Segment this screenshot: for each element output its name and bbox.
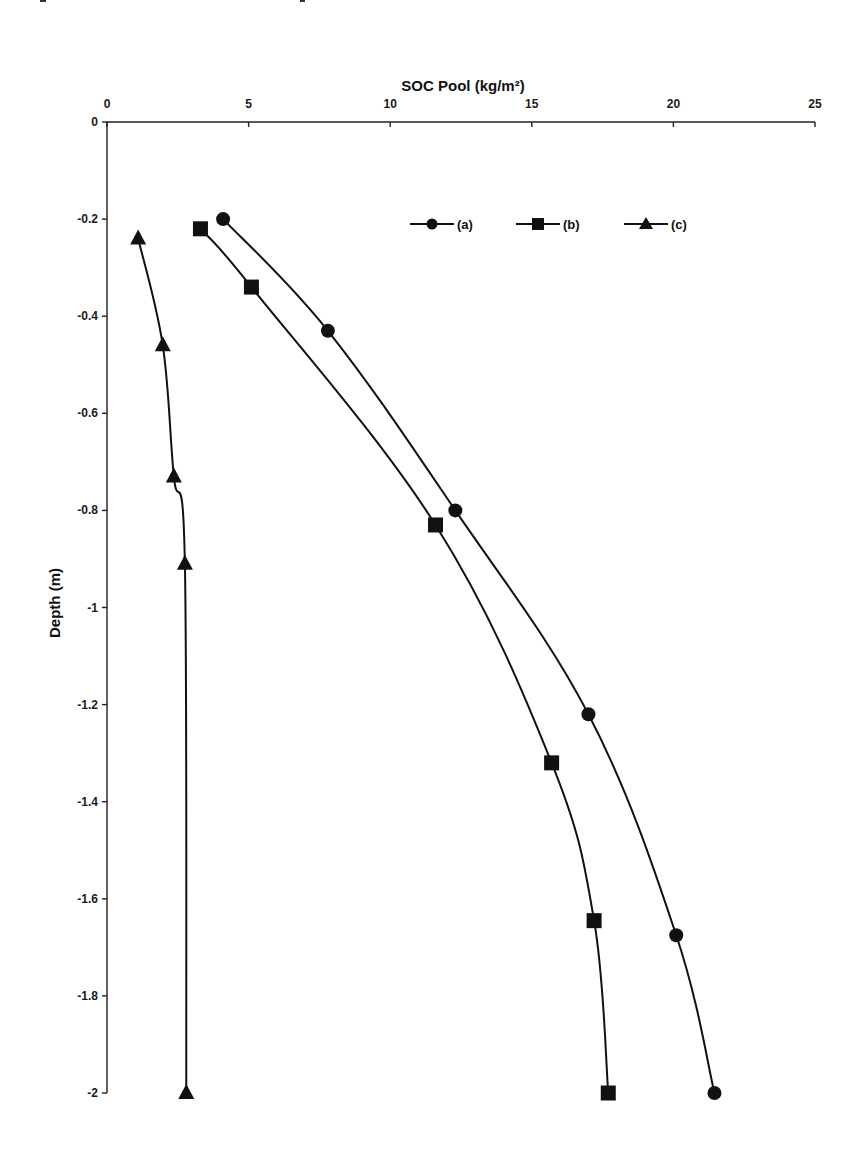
soc-depth-chart: SOC Pool (kg/m²) Depth (m) 0510152025 0-…: [0, 0, 864, 1149]
x-tick-label: 5: [245, 97, 252, 111]
square-marker-icon: [428, 517, 443, 532]
x-axis-title: SOC Pool (kg/m²): [401, 77, 524, 94]
triangle-marker-icon: [130, 230, 146, 245]
legend: (a)(b)(c): [410, 217, 687, 232]
series-c: [130, 230, 194, 1099]
triangle-marker-icon: [166, 467, 182, 482]
square-marker-icon: [193, 221, 208, 236]
y-tick-label: -0.8: [77, 503, 98, 517]
series-b: [193, 221, 616, 1100]
y-axis-title: Depth (m): [46, 568, 63, 638]
x-tick-label: 25: [808, 97, 822, 111]
series-line: [200, 229, 608, 1093]
y-tick-label: -0.2: [77, 212, 98, 226]
circle-marker-icon: [427, 219, 438, 230]
y-tick-label: -1.4: [77, 795, 98, 809]
legend-item-c: (c): [624, 217, 687, 232]
x-tick-label: 0: [104, 97, 111, 111]
triangle-marker-icon: [177, 555, 193, 570]
y-tick-label: 0: [91, 115, 98, 129]
x-tick-label: 20: [667, 97, 681, 111]
y-tick-label: -1: [87, 601, 98, 615]
legend-item-a: (a): [410, 217, 473, 232]
circle-marker-icon: [321, 324, 335, 338]
square-marker-icon: [601, 1086, 616, 1101]
x-axis: 0510152025: [104, 97, 822, 127]
square-marker-icon: [587, 913, 602, 928]
y-tick-label: -0.4: [77, 309, 98, 323]
square-marker-icon: [544, 755, 559, 770]
legend-label: (b): [563, 217, 580, 232]
y-axis: 0-0.2-0.4-0.6-0.8-1-1.2-1.4-1.6-1.8-2: [77, 115, 107, 1100]
circle-marker-icon: [216, 212, 230, 226]
circle-marker-icon: [581, 707, 595, 721]
legend-label: (c): [671, 217, 687, 232]
circle-marker-icon: [448, 503, 462, 517]
circle-marker-icon: [707, 1086, 721, 1100]
triangle-marker-icon: [155, 336, 171, 351]
square-marker-icon: [244, 280, 259, 295]
square-marker-icon: [532, 218, 544, 230]
series-a: [216, 212, 721, 1100]
plot-area: [130, 212, 721, 1100]
series-line: [223, 219, 714, 1093]
legend-label: (a): [457, 217, 473, 232]
legend-item-b: (b): [516, 217, 580, 232]
clipped-caption-fragment: [40, 0, 305, 2]
y-tick-label: -1.6: [77, 892, 98, 906]
series-line: [138, 239, 186, 1093]
y-tick-label: -0.6: [77, 406, 98, 420]
triangle-marker-icon: [178, 1084, 194, 1099]
x-tick-label: 10: [384, 97, 398, 111]
y-tick-label: -2: [87, 1086, 98, 1100]
circle-marker-icon: [669, 928, 683, 942]
y-tick-label: -1.8: [77, 989, 98, 1003]
y-tick-label: -1.2: [77, 698, 98, 712]
x-tick-label: 15: [525, 97, 539, 111]
